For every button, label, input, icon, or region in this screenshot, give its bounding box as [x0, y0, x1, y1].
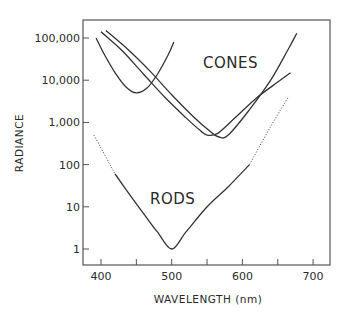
- x-tick-label: 700: [303, 270, 324, 283]
- cones-label: CONES: [203, 54, 258, 72]
- y-tick-label: 100: [59, 159, 80, 172]
- curves: [94, 31, 297, 249]
- x-tick-label: 600: [232, 270, 253, 283]
- y-tick-label: 10,000: [42, 74, 81, 87]
- radiance-vs-wavelength-chart: 1101001,00010,000100,000 400500600700 RA…: [0, 0, 347, 316]
- y-axis-ticks: 1101001,00010,000100,000: [35, 32, 90, 256]
- curve-cone-middle-wavelength: [101, 32, 291, 136]
- curve-cone-long-wavelength: [106, 31, 297, 138]
- y-tick-label: 1,000: [49, 116, 81, 129]
- y-tick-label: 1: [73, 243, 80, 256]
- y-axis-title: RADIANCE: [13, 114, 25, 172]
- x-axis-ticks: 400500600700: [91, 259, 324, 283]
- x-tick-label: 400: [91, 270, 112, 283]
- x-axis-title: WAVELENGTH (nm): [154, 293, 262, 305]
- curve-rods-extrapolated: [250, 97, 289, 165]
- x-tick-label: 500: [161, 270, 182, 283]
- curve-rods-extrapolated: [94, 135, 115, 174]
- y-tick-label: 100,000: [35, 32, 81, 45]
- rods-label: RODS: [150, 190, 195, 208]
- y-tick-label: 10: [66, 201, 80, 214]
